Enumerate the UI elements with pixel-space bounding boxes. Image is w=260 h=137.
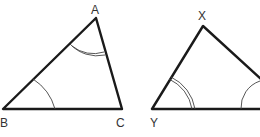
angle-z-arc bbox=[241, 81, 260, 109]
triangle-abc-edges bbox=[3, 18, 122, 109]
angle-a-arc-outer bbox=[70, 44, 105, 56]
vertex-label-a: A bbox=[91, 3, 99, 17]
vertex-label-y: Y bbox=[150, 116, 158, 130]
vertex-label-x: X bbox=[198, 9, 206, 23]
diagram-canvas: A B C X Y bbox=[0, 0, 260, 137]
triangle-xyz-edges bbox=[152, 26, 260, 109]
vertex-label-b: B bbox=[0, 116, 8, 130]
angle-b-arc bbox=[33, 79, 55, 109]
triangles-figure: A B C X Y bbox=[0, 0, 260, 137]
vertex-label-c: C bbox=[116, 116, 125, 130]
triangle-abc: A B C bbox=[0, 3, 125, 130]
triangle-xyz: X Y bbox=[150, 9, 260, 130]
